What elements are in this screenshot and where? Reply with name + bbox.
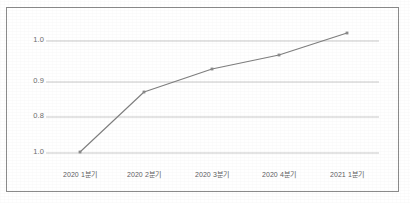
y-axis-tick-label: 0.8: [18, 111, 44, 120]
x-axis-tick-label: 2020 3분기: [177, 170, 247, 179]
chart-frame-border: [6, 7, 399, 192]
x-axis-tick-label: 2020 1분기: [45, 170, 115, 179]
y-axis-tick-label: 1.0: [18, 147, 44, 156]
x-axis-tick-label: 2021 1분기: [312, 170, 382, 179]
x-axis-tick-label: 2020 4분기: [244, 170, 314, 179]
y-axis-tick-label: 1.0: [18, 35, 44, 44]
y-axis-tick-label: 0.9: [18, 76, 44, 85]
chart-figure: 1.0 0.9 0.8 1.0 2020 1분기 2020 2분기 2020 3…: [0, 0, 410, 203]
x-axis-tick-label: 2020 2분기: [109, 170, 179, 179]
